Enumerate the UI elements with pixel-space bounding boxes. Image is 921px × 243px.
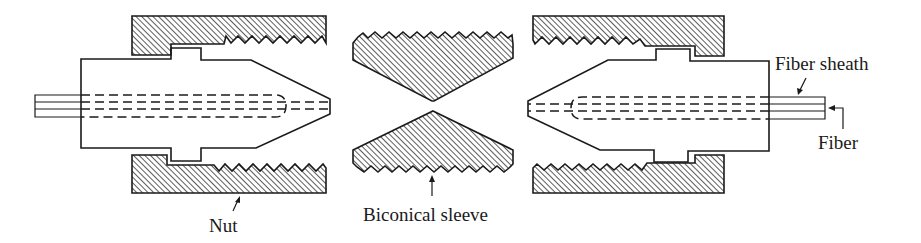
biconical-sleeve-label: Biconical sleeve bbox=[363, 204, 488, 225]
right-hidden-fiber bbox=[528, 104, 769, 111]
left-nut-bottom bbox=[132, 155, 326, 193]
right-fiber-sheath bbox=[769, 97, 825, 119]
fiber-sheath-label: Fiber sheath bbox=[775, 53, 869, 74]
biconical-connector-diagram: Nut Biconical sleeve Fiber sheath Fiber bbox=[0, 0, 921, 243]
sleeve-bottom-half bbox=[353, 111, 513, 172]
sleeve-arrow-head bbox=[429, 175, 435, 182]
left-hidden-fiber bbox=[81, 102, 330, 109]
left-nut-top bbox=[132, 16, 326, 55]
fiber-sheath-leader-line bbox=[800, 78, 806, 90]
sleeve-label-group: Biconical sleeve bbox=[363, 175, 488, 225]
biconical-sleeve bbox=[353, 32, 513, 172]
fiber-leader-line bbox=[834, 108, 843, 129]
right-plug-body bbox=[528, 49, 769, 162]
left-plug-body bbox=[81, 48, 330, 161]
right-nut-top bbox=[533, 16, 724, 56]
fiber-label: Fiber bbox=[818, 132, 859, 153]
sleeve-top-half bbox=[353, 32, 513, 101]
left-plug bbox=[35, 48, 330, 161]
right-hidden-sheath-outline bbox=[571, 97, 769, 119]
nut-arrow-head bbox=[235, 196, 240, 203]
nut-label-group: Nut bbox=[209, 196, 240, 236]
left-hidden-sheath-outline bbox=[81, 95, 286, 117]
fiber-label-group: Fiber bbox=[818, 105, 859, 153]
right-nut-bottom bbox=[533, 155, 724, 193]
fiber-arrow-head bbox=[828, 105, 835, 111]
nut-label: Nut bbox=[209, 215, 238, 236]
fiber-sheath-arrow-head bbox=[797, 88, 803, 95]
left-fiber-sheath bbox=[35, 95, 81, 117]
left-nut bbox=[132, 16, 326, 193]
fiber-sheath-label-group: Fiber sheath bbox=[775, 53, 869, 95]
